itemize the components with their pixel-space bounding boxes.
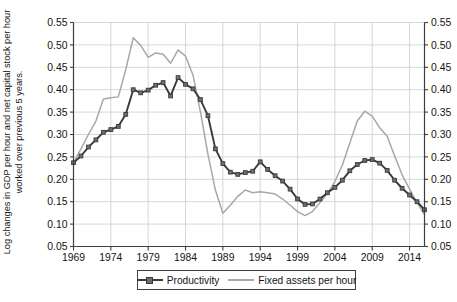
data-point-marker [415,200,419,204]
y-tick-label-left: 0.15 [47,196,67,207]
data-point-marker [311,202,315,206]
x-tick-label: 2014 [398,252,421,263]
x-tick-label: 1974 [99,252,122,263]
data-point-marker [236,172,240,176]
plot-area: 0.050.050.100.100.150.150.200.200.250.25… [0,0,457,302]
x-tick-label: 2009 [361,252,384,263]
y-tick-label-right: 0.25 [431,152,451,163]
legend-swatch-fixed-assets [228,275,254,285]
x-tick-label: 2004 [323,252,346,263]
chart-figure: Log changes in GDP per hour and net capi… [0,0,457,302]
data-point-marker [161,81,165,85]
data-point-marker [176,76,180,80]
y-tick-label-right: 0.55 [431,17,451,28]
data-point-marker [206,114,210,118]
y-tick-label-right: 0.20 [431,174,451,185]
x-tick-label: 1999 [286,252,309,263]
y-tick-label-left: 0.50 [47,40,67,51]
y-tick-label-left: 0.20 [47,174,67,185]
data-point-marker [154,83,158,87]
legend-item-productivity[interactable]: Productivity [137,275,220,286]
data-point-marker [213,147,217,151]
data-point-marker [124,112,128,116]
data-point-marker [87,145,91,149]
y-tick-label-left: 0.30 [47,129,67,140]
y-tick-label-right: 0.50 [431,40,451,51]
y-tick-label-right: 0.30 [431,129,451,140]
legend-swatch-productivity [137,275,163,285]
data-point-marker [184,82,188,86]
data-point-marker [266,168,270,172]
data-point-marker [281,179,285,183]
data-point-marker [296,197,300,201]
data-point-marker [400,186,404,190]
data-point-marker [191,87,195,91]
y-tick-label-left: 0.55 [47,17,67,28]
data-point-marker [273,174,277,178]
data-point-marker [333,185,337,189]
chart-legend: Productivity Fixed assets per hour [137,270,356,290]
y-tick-label-left: 0.45 [47,62,67,73]
data-point-marker [199,98,203,102]
x-tick-label: 1984 [174,252,197,263]
y-tick-label-right: 0.05 [431,241,451,252]
data-point-marker [303,202,307,206]
data-point-marker [79,154,83,158]
data-point-marker [393,178,397,182]
y-tick-label-right: 0.10 [431,219,451,230]
y-tick-label-right: 0.35 [431,107,451,118]
data-point-marker [101,130,105,134]
data-point-marker [146,88,150,92]
data-point-marker [348,169,352,173]
data-point-marker [109,128,113,132]
data-point-marker [326,191,330,195]
legend-label-productivity: Productivity [167,275,220,286]
x-tick-label: 1989 [211,252,234,263]
data-point-marker [318,197,322,201]
y-tick-label-left: 0.25 [47,152,67,163]
data-point-marker [385,168,389,172]
legend-item-fixed-assets-per-hour[interactable]: Fixed assets per hour [228,275,356,286]
data-point-marker [169,94,173,98]
data-point-marker [378,161,382,165]
legend-label-fixed-assets-per-hour: Fixed assets per hour [258,275,356,286]
data-point-marker [370,158,374,162]
y-tick-label-left: 0.35 [47,107,67,118]
x-tick-label: 1994 [249,252,272,263]
y-tick-label-left: 0.40 [47,84,67,95]
data-point-marker [258,160,262,164]
data-point-marker [139,91,143,95]
x-tick-label: 1969 [62,252,85,263]
data-point-marker [251,169,255,173]
data-point-marker [408,193,412,197]
data-point-marker [340,178,344,182]
data-point-marker [116,125,120,129]
y-tick-label-right: 0.40 [431,84,451,95]
data-point-marker [228,170,232,174]
y-tick-label-left: 0.10 [47,219,67,230]
y-tick-label-left: 0.05 [47,241,67,252]
data-point-marker [363,159,367,163]
y-tick-label-right: 0.15 [431,196,451,207]
y-tick-label-right: 0.45 [431,62,451,73]
data-point-marker [288,187,292,191]
data-point-marker [221,162,225,166]
x-tick-label: 1979 [137,252,160,263]
footnote-text-cropped [0,293,457,302]
data-point-marker [131,88,135,92]
data-point-marker [355,163,359,167]
data-point-marker [94,138,98,142]
data-point-marker [243,171,247,175]
